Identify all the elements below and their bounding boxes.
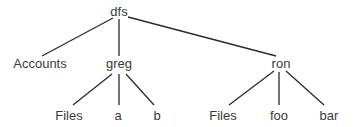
edge-ron-ron_bar [286, 71, 324, 105]
node-dfs: dfs [110, 5, 127, 18]
edge-dfs-accounts [42, 18, 113, 56]
edge-ron-ron_files [229, 71, 274, 105]
node-ron-foo: foo [270, 109, 288, 122]
node-ron-bar: bar [320, 109, 339, 122]
edge-greg-greg_files [73, 74, 112, 105]
edge-dfs-ron [128, 17, 276, 56]
node-greg-files: Files [55, 109, 82, 122]
edge-greg-greg_b [126, 74, 154, 105]
node-greg: greg [106, 57, 132, 70]
tree-diagram: dfs Accounts greg ron Files a b Files fo… [0, 0, 353, 127]
node-ron: ron [272, 57, 291, 70]
node-accounts: Accounts [13, 57, 66, 70]
node-ron-files: Files [209, 109, 236, 122]
node-greg-b: b [153, 109, 160, 122]
node-greg-a: a [114, 109, 121, 122]
